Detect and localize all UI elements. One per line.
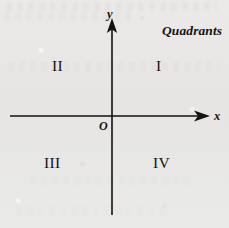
origin-label: O [99,120,108,132]
quadrants-figure: Quadrants y x O I II III IV [0,0,229,228]
figure-title: Quadrants [162,24,222,38]
quadrant-label-iii: III [44,155,61,171]
quadrant-label-iv: IV [153,155,170,171]
x-axis-label: x [214,110,220,123]
quadrant-label-ii: II [52,58,63,74]
quadrant-label-i: I [156,58,162,74]
y-axis-label: y [107,8,113,21]
